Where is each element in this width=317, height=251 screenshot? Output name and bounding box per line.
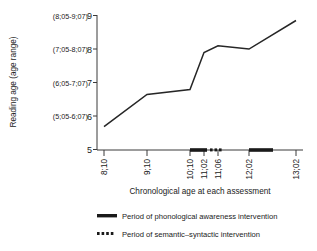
legend-solid-marker-icon [97, 214, 117, 217]
legend-dot-marker-icon-2 [102, 232, 105, 235]
chart-svg: Reading age (age range) 9 8 7 6 5 (8;05-… [0, 0, 317, 251]
y-range-label-9: (8;05-9;07) [53, 12, 88, 21]
y-range-label-7: (6;05-7;07) [53, 79, 88, 88]
x-tick-label-8-10: 8;10 [100, 159, 109, 175]
x-tick-label-11-02: 11;02 [200, 159, 209, 179]
y-range-label-6: (5;05-6;07) [53, 112, 88, 121]
semantic-syntactic-dot-2 [215, 148, 218, 151]
phonological-intervention-bar-2 [249, 148, 273, 152]
x-axis-title: Chronological age at each assessment [129, 187, 271, 196]
legend-item-semantic-syntactic: Period of semantic–syntactic interventio… [97, 230, 260, 239]
legend-dot-marker-icon-1 [97, 232, 100, 235]
legend-label-semantic-syntactic: Period of semantic–syntactic interventio… [122, 230, 260, 239]
x-tick-label-13-02: 13;02 [292, 159, 301, 180]
legend: Period of phonological awareness interve… [97, 212, 277, 239]
x-tick-label-10-10: 10;10 [186, 159, 195, 180]
x-tick-label-11-06: 11;06 [214, 159, 223, 179]
legend-dot-marker-icon-4 [111, 232, 114, 235]
y-tick-label-5: 5 [87, 145, 92, 155]
semantic-syntactic-dot-3 [219, 148, 222, 151]
legend-label-phonological: Period of phonological awareness interve… [122, 212, 277, 221]
figure-container: Reading age (age range) 9 8 7 6 5 (8;05-… [0, 0, 317, 251]
x-tick-label-9-10: 9;10 [143, 159, 152, 175]
legend-dot-marker-icon-3 [106, 232, 109, 235]
semantic-syntactic-dot-1 [210, 148, 213, 151]
x-tick-label-12-02: 12;02 [245, 159, 254, 180]
reading-age-line [104, 21, 296, 127]
legend-item-phonological: Period of phonological awareness interve… [97, 212, 277, 221]
y-range-label-8: (7;05-8;07) [53, 45, 88, 54]
phonological-intervention-bar-1 [190, 148, 207, 152]
y-axis-title: Reading age (age range) [9, 36, 18, 127]
